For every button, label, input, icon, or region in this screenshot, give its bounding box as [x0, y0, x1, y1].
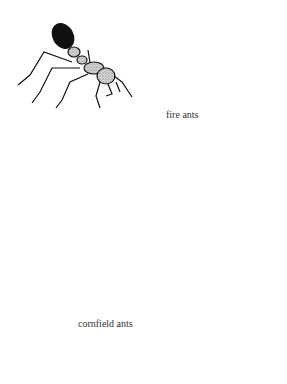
fire-ant-1	[18, 20, 132, 108]
fire-ants-label: fire ants	[166, 109, 199, 120]
ant-illustration	[0, 0, 287, 384]
cornfield-ants-label: cornfield ants	[78, 318, 133, 329]
